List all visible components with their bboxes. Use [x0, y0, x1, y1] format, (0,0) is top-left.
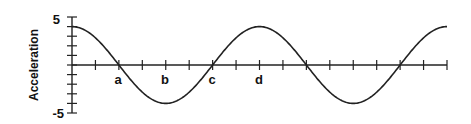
y-max-label: 5: [53, 12, 60, 27]
point-label-c: c: [208, 72, 215, 87]
point-label-a: a: [114, 72, 122, 87]
y-axis-title: Acceleration: [27, 29, 41, 101]
point-label-d: d: [255, 72, 263, 87]
point-label-b: b: [161, 72, 169, 87]
acceleration-chart: 5 -5 Acceleration a b c d: [0, 0, 471, 124]
y-min-label: -5: [52, 106, 64, 121]
